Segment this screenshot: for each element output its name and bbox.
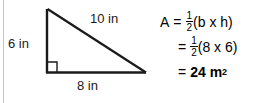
right-angle-marker xyxy=(47,62,57,72)
formula-equals-2: = xyxy=(178,39,186,55)
fraction-denominator-1: 2 xyxy=(186,23,194,33)
formula-line-3: = 24 m2 xyxy=(160,59,270,84)
formula-line-2: = 1 2 (8 x 6) xyxy=(160,34,270,59)
label-base-8-in: 8 in xyxy=(77,79,98,92)
triangle-figure: 6 in 10 in 8 in xyxy=(0,0,152,103)
formula-variable-a: A xyxy=(160,14,169,30)
fraction-denominator-2: 2 xyxy=(190,48,198,58)
fraction-numerator-1: 1 xyxy=(186,11,194,21)
area-formula-block: A = 1 2 (b x h) = 1 2 (8 x 6) = 24 m2 xyxy=(160,9,270,84)
fraction-one-half-2: 1 2 xyxy=(190,36,198,58)
formula-equals-3: = xyxy=(178,64,186,80)
formula-line-1: A = 1 2 (b x h) xyxy=(160,9,270,34)
formula-result-value: 24 m xyxy=(190,64,222,80)
formula-expression-2: (8 x 6) xyxy=(198,39,238,55)
formula-expression-1: (b x h) xyxy=(193,14,233,30)
fraction-numerator-2: 1 xyxy=(190,36,198,46)
label-hypotenuse-10-in: 10 in xyxy=(90,12,118,25)
label-height-6-in: 6 in xyxy=(8,37,29,50)
worksheet-figure-panel: 6 in 10 in 8 in A = 1 2 (b x h) = 1 2 (8… xyxy=(0,0,270,103)
formula-equals-1: = xyxy=(173,14,181,30)
fraction-one-half-1: 1 2 xyxy=(186,11,194,33)
